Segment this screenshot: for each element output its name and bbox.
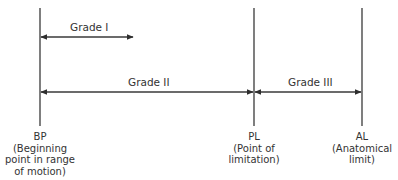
grade-3-label: Grade III xyxy=(288,76,333,88)
bp-label: BP (Beginning point in range of motion) xyxy=(0,131,80,177)
bp-desc-line-3: of motion) xyxy=(0,166,80,178)
bp-desc-line-1: (Beginning xyxy=(0,143,80,155)
pl-abbr: PL xyxy=(219,131,289,143)
pl-label: PL (Point of limitation) xyxy=(219,131,289,166)
al-abbr: AL xyxy=(324,131,398,143)
grade-2-label: Grade II xyxy=(128,76,170,88)
pl-desc-line-1: (Point of xyxy=(219,143,289,155)
grade-1-label: Grade I xyxy=(70,21,108,33)
al-desc-line-1: (Anatomical xyxy=(324,143,398,155)
bp-desc-line-2: point in range xyxy=(0,154,80,166)
pl-desc-line-2: limitation) xyxy=(219,154,289,166)
bp-abbr: BP xyxy=(0,131,80,143)
al-desc-line-2: limit) xyxy=(324,154,398,166)
al-label: AL (Anatomical limit) xyxy=(324,131,398,166)
